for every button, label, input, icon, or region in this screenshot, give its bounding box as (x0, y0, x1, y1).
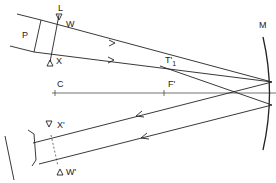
stop-marker-x-prime-icon (46, 121, 52, 127)
label-m: M (259, 20, 267, 30)
arrow-icon (109, 40, 115, 46)
label-x: X (56, 56, 62, 66)
stop-marker-x-icon (47, 60, 53, 66)
arrow-icon (136, 111, 144, 117)
label-t1: T'1 (165, 55, 176, 67)
image-box (5, 130, 36, 180)
label-w-prime: W' (66, 167, 76, 177)
image-stop-dashed (51, 135, 58, 166)
ray-lower-in (34, 52, 272, 82)
label-c: C (57, 79, 64, 89)
ray-reflected-upper (33, 82, 272, 143)
label-x-prime: X' (57, 120, 65, 130)
label-f: F' (168, 79, 175, 89)
ray-upper-cont (160, 66, 272, 105)
concave-mirror (263, 37, 270, 150)
label-w: W (66, 19, 75, 29)
mirror-ray-diagram: L W P X T'1 C F' M X' W' (0, 0, 276, 183)
ray-upper-in (41, 20, 272, 82)
stop-marker-w-prime-icon (57, 169, 63, 175)
label-p: P (22, 30, 28, 40)
ray-reflected-lower (39, 105, 272, 164)
label-l: L (58, 3, 63, 13)
